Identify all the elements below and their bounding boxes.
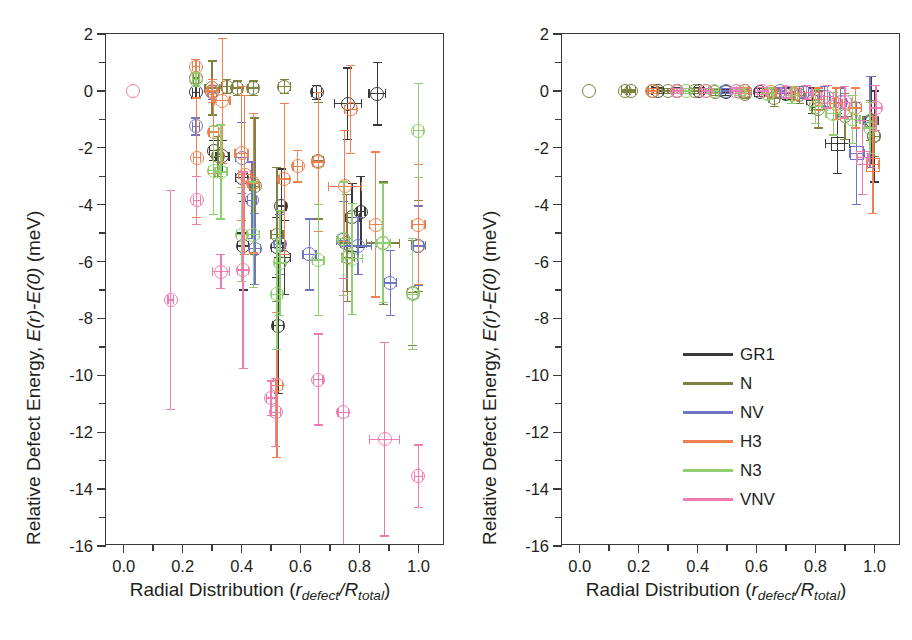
error-bar-cap — [240, 95, 249, 96]
error-bar-cap — [272, 457, 281, 458]
error-bar-cap — [348, 314, 357, 315]
x-minor-tick-mark — [270, 544, 271, 551]
legend-item-nv[interactable]: NV — [683, 398, 775, 427]
error-bar-cap — [239, 171, 248, 172]
y-tick-label: -14 — [525, 479, 549, 499]
y-tick-label: -14 — [69, 479, 93, 499]
error-bar-cap — [840, 86, 849, 87]
marker-circle — [215, 94, 229, 108]
error-bar-cap — [328, 182, 329, 191]
error-bar-cap — [354, 217, 363, 218]
y-tick-label: 2 — [84, 24, 93, 44]
error-bar-cap — [249, 181, 258, 182]
y-tick-mark — [97, 432, 106, 433]
error-bar-cap — [249, 113, 258, 114]
legend-item-gr1[interactable]: GR1 — [683, 340, 775, 369]
y-minor-tick-mark — [555, 119, 562, 120]
legend-item-vnv[interactable]: VNV — [683, 485, 775, 514]
x-tick-label: 0.4 — [672, 556, 724, 576]
error-bar-cap — [362, 254, 363, 263]
plot-area-left — [106, 34, 443, 544]
marker-circle — [336, 232, 350, 246]
error-bar-cap — [216, 288, 225, 289]
error-bar-cap — [229, 267, 230, 276]
x-tick-label: 0.2 — [157, 556, 209, 576]
y-minor-tick-mark — [555, 289, 562, 290]
marker-circle — [214, 265, 228, 279]
legend-item-h3[interactable]: H3 — [683, 427, 775, 456]
marker-circle — [271, 319, 285, 333]
y-tick-mark — [97, 375, 106, 376]
error-bar-cap — [346, 65, 355, 66]
error-bar-cap — [314, 204, 323, 205]
error-bar-cap — [825, 139, 826, 148]
marker-circle — [800, 85, 814, 99]
y-tick-mark — [553, 545, 562, 546]
marker-circle — [729, 84, 743, 98]
y-minor-tick-mark — [99, 403, 106, 404]
y-tick-label: -12 — [525, 422, 549, 442]
y-tick-mark — [97, 488, 106, 489]
y-minor-tick-mark — [99, 62, 106, 63]
error-bar-cap — [373, 62, 382, 63]
y-minor-tick-mark — [99, 289, 106, 290]
y-tick-label: -10 — [69, 365, 93, 385]
y-tick-label: -2 — [534, 138, 549, 158]
figure-root: 20-2-4-6-8-10-12-14-160.00.20.40.60.81.0… — [0, 0, 912, 640]
y-tick-mark — [97, 90, 106, 91]
marker-circle — [411, 469, 425, 483]
legend-item-n[interactable]: N — [683, 369, 775, 398]
y-tick-label: -8 — [78, 308, 93, 328]
error-bar-cap — [371, 151, 380, 152]
x-tick-label: 1.0 — [848, 556, 900, 576]
x-axis-title-prefix: Radial Distribution ( — [130, 579, 296, 600]
error-bar-cap — [293, 181, 302, 182]
x-axis-title-denominator-sub: total — [814, 588, 840, 603]
error-bar-cap — [208, 79, 217, 80]
error-bar-cap — [218, 163, 227, 164]
x-axis-title-denominator: R — [344, 579, 358, 600]
error-bar-cap — [280, 254, 289, 255]
legend-swatch-line-icon — [683, 382, 733, 384]
y-tick-mark — [97, 545, 106, 546]
x-tick-mark — [359, 544, 360, 553]
y-axis-title-prefix: Relative Defect Energy, — [479, 342, 500, 545]
error-bar-cap — [249, 287, 258, 288]
error-bar-cap — [829, 134, 838, 135]
error-bar-cap — [369, 435, 370, 444]
x-tick-label: 0.0 — [98, 556, 150, 576]
y-minor-tick-mark — [99, 346, 106, 347]
legend-item-label: VNV — [740, 490, 775, 510]
x-axis-title-prefix: Radial Distribution ( — [586, 579, 752, 600]
y-tick-label: 0 — [84, 81, 93, 101]
marker-circle — [406, 287, 420, 301]
y-tick-label: -6 — [78, 252, 93, 272]
marker-circle — [820, 90, 834, 104]
legend-item-n3[interactable]: N3 — [683, 456, 775, 485]
error-bar-cap — [216, 218, 225, 219]
error-bar-cap — [272, 167, 281, 168]
error-bar-cap — [339, 181, 348, 182]
error-bar-cap — [305, 218, 314, 219]
error-bar-cap — [209, 90, 218, 91]
error-bar-cap — [192, 176, 201, 177]
error-bar-cap — [380, 535, 389, 536]
error-bar-cap — [414, 83, 423, 84]
error-bar-cap — [250, 284, 259, 285]
x-minor-tick-mark — [211, 544, 212, 551]
legend-item-label: H3 — [740, 432, 762, 452]
y-tick-label: -2 — [78, 138, 93, 158]
error-bar-cap — [346, 153, 355, 154]
marker-circle — [376, 236, 390, 250]
error-bar-cap — [373, 124, 382, 125]
error-bar-cap — [272, 349, 281, 350]
marker-circle — [277, 172, 291, 186]
x-minor-tick-mark — [785, 544, 786, 551]
y-tick-mark — [97, 318, 106, 319]
marker-circle — [624, 84, 638, 98]
marker-circle — [126, 84, 140, 98]
error-bar-cap — [870, 156, 879, 157]
marker-circle — [411, 124, 425, 138]
marker-circle — [214, 165, 228, 179]
y-minor-tick-mark — [555, 403, 562, 404]
